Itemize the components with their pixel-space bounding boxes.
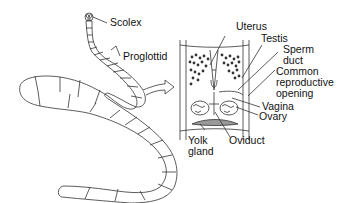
label-oviduct: Oviduct bbox=[229, 135, 265, 146]
label-common-3: opening bbox=[276, 88, 313, 99]
label-proglottid: Proglottid bbox=[123, 51, 167, 62]
scolex-leader bbox=[93, 17, 107, 23]
proglottid-bracket bbox=[111, 46, 120, 56]
label-uterus: Uterus bbox=[236, 21, 267, 32]
arrow-icon bbox=[143, 80, 174, 95]
proglottid-detail bbox=[180, 40, 249, 140]
common-opening-leader bbox=[248, 70, 275, 96]
vagina-leader bbox=[232, 98, 260, 107]
testis-leader bbox=[242, 45, 262, 78]
label-yolk-2: gland bbox=[188, 146, 214, 157]
scolex-shape bbox=[85, 13, 93, 21]
label-scolex: Scolex bbox=[110, 17, 142, 28]
sperm-duct-leader bbox=[238, 52, 278, 90]
label-ovary: Ovary bbox=[259, 111, 287, 122]
uterus-leader bbox=[210, 36, 225, 65]
ovary-leader bbox=[236, 107, 258, 115]
worm-body bbox=[20, 21, 177, 203]
